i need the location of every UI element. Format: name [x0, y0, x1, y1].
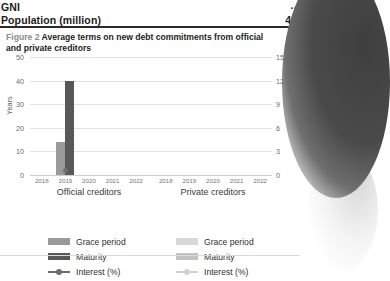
- legend-private-creditors: Grace periodMaturityInterest (%): [176, 234, 316, 279]
- gridline: [30, 175, 272, 176]
- bottom-divider: [0, 255, 300, 256]
- page-edge-shadow-fade: [308, 150, 378, 270]
- x-axis-tick: 2022: [248, 177, 272, 184]
- x-axis-tick: 2021: [101, 177, 125, 184]
- figure-title-text: Average terms on new debt commitments fr…: [6, 32, 263, 53]
- legend-label: Grace period: [204, 237, 254, 247]
- legend-color-swatch: [176, 238, 198, 245]
- x-axis-tick: 2020: [201, 177, 225, 184]
- table-row: GNI ..: [0, 0, 305, 14]
- x-axis-tick: 2019: [178, 177, 202, 184]
- y-axis-left-tick: 50: [6, 53, 24, 62]
- legend-item[interactable]: Grace period: [176, 234, 316, 249]
- legend-line-swatch: [176, 268, 198, 275]
- x-axis-tick: 2022: [124, 177, 148, 184]
- x-axis-tick: 2018: [30, 177, 54, 184]
- legend-item[interactable]: Interest (%): [176, 264, 316, 279]
- legend-item[interactable]: Maturity: [48, 249, 188, 264]
- y-axis-right-label: Interest (%): [306, 74, 315, 130]
- x-axis-tick: 2021: [225, 177, 249, 184]
- bars-private: [154, 57, 272, 175]
- panel-official-creditors: [30, 57, 148, 175]
- marker-interest: [63, 168, 68, 173]
- legend-official-creditors: Grace periodMaturityInterest (%): [48, 234, 188, 279]
- indicator-table: GNI .. Population (million) 41: [0, 0, 305, 27]
- header-divider: [0, 26, 296, 28]
- y-axis-left-tick: 10: [6, 147, 24, 156]
- figure-block: Figure 2 Average terms on new debt commi…: [0, 30, 310, 54]
- x-axis-ticks-official: 20182019202020212022: [30, 177, 148, 184]
- panel-title-private: Private creditors: [154, 187, 272, 197]
- panel-private-creditors: [154, 57, 272, 175]
- legend-item[interactable]: Grace period: [48, 234, 188, 249]
- legend-line-swatch: [48, 268, 70, 275]
- gni-label: GNI: [0, 1, 20, 13]
- x-axis-tick: 2019: [54, 177, 78, 184]
- population-label: Population (million): [0, 14, 101, 26]
- y-axis-right-tick: 9: [276, 100, 294, 109]
- x-axis-tick: 2020: [77, 177, 101, 184]
- figure-number: Figure 2: [6, 32, 39, 42]
- y-axis-left-label: Years: [5, 83, 14, 129]
- y-axis-right-tick: 0: [276, 171, 294, 180]
- y-axis-right-tick: 3: [276, 147, 294, 156]
- y-axis-left-tick: 0: [6, 171, 24, 180]
- legend-label: Grace period: [76, 237, 126, 247]
- legend-item[interactable]: Maturity: [176, 249, 316, 264]
- legend-label: Maturity: [76, 252, 107, 262]
- population-value: 41: [285, 14, 305, 26]
- x-axis-ticks-private: 20182019202020212022: [154, 177, 272, 184]
- y-axis-right-tick: 6: [276, 124, 294, 133]
- y-axis-right-tick: 12: [276, 77, 294, 86]
- legend-label: Interest (%): [204, 267, 248, 277]
- legend-item[interactable]: Interest (%): [48, 264, 188, 279]
- bars-official: [30, 57, 148, 175]
- legend-color-swatch: [48, 238, 70, 245]
- bar-maturity: [65, 81, 74, 175]
- gni-value: ..: [290, 0, 305, 11]
- figure-title: Figure 2 Average terms on new debt commi…: [0, 30, 274, 54]
- legend-label: Maturity: [204, 252, 235, 262]
- legend-label: Interest (%): [76, 267, 120, 277]
- x-axis-tick: 2018: [154, 177, 178, 184]
- panel-title-official: Official creditors: [30, 187, 148, 197]
- chart-plot-area: 01020304050 03691215 Years Interest (%) …: [0, 53, 310, 181]
- y-axis-right-tick: 15: [276, 53, 294, 62]
- chart-legend: Grace periodMaturityInterest (%) Grace p…: [0, 234, 310, 281]
